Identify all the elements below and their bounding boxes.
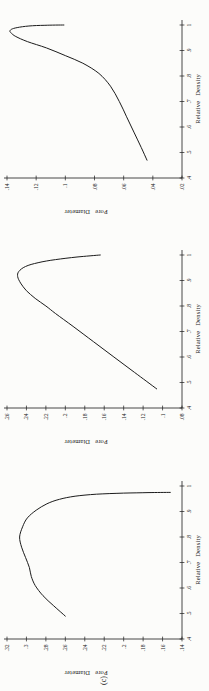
x-tick-label: .4 <box>186 176 192 180</box>
axis-lines <box>4 250 182 408</box>
x-tick-label: .7 <box>186 329 192 333</box>
x-tick-label: .4 <box>186 406 192 410</box>
x-tick-label: .5 <box>186 380 192 384</box>
x-tick-label: .7 <box>186 560 192 564</box>
y-tick-label: .14 <box>179 644 185 651</box>
x-tick-label: .9 <box>186 509 192 513</box>
x-tick-label: .8 <box>186 74 192 78</box>
y-tick-label: .28 <box>43 644 49 651</box>
y-tick-label: .26 <box>4 413 10 420</box>
x-tick-label: .8 <box>186 535 192 539</box>
y-tick-label: .22 <box>101 644 107 651</box>
y-tick-label: .26 <box>62 644 68 651</box>
line-chart-bottom: Pore Diameter Relative Density .4.5.6.7.… <box>0 461 209 691</box>
axis-lines <box>4 481 182 639</box>
line-chart-middle: Pore Diameter Relative Density .4.5.6.7.… <box>0 230 209 460</box>
y-tick-label: .06 <box>121 183 127 190</box>
y-tick-label: .12 <box>33 183 39 190</box>
x-tick-label: .9 <box>186 278 192 282</box>
x-tick-label: .5 <box>186 150 192 154</box>
y-tick-label: .08 <box>92 183 98 190</box>
x-axis-title: Relative Density <box>194 304 201 354</box>
y-tick-label: .2 <box>62 413 68 417</box>
data-curve <box>10 25 147 160</box>
axis-lines <box>4 20 182 178</box>
y-tick-label: .08 <box>179 413 185 420</box>
data-curve <box>18 255 157 389</box>
y-tick-label: .24 <box>23 413 29 420</box>
y-tick-label: .14 <box>4 183 10 190</box>
x-tick-label: .5 <box>186 611 192 615</box>
y-tick-label: .14 <box>121 413 127 420</box>
y-tick-label: .12 <box>140 413 146 420</box>
y-axis-title: Pore Diameter <box>64 439 108 446</box>
x-tick-label: .4 <box>186 637 192 641</box>
y-tick-label: .24 <box>82 644 88 651</box>
x-tick-label: .6 <box>186 125 192 129</box>
data-curve <box>20 492 171 616</box>
subplot-top: Pore Diameter Relative Density .4.5.6.7.… <box>0 0 209 230</box>
y-axis-title: Pore Diameter <box>64 209 108 216</box>
x-tick-label: .7 <box>186 99 192 103</box>
y-tick-label: .16 <box>101 413 107 420</box>
y-tick-label: .02 <box>179 183 185 190</box>
x-tick-label: .6 <box>186 355 192 359</box>
y-tick-label: .1 <box>160 413 166 417</box>
line-chart-top: Pore Diameter Relative Density .4.5.6.7.… <box>0 0 209 230</box>
x-tick-label: 1 <box>186 484 192 487</box>
y-tick-label: .18 <box>140 644 146 651</box>
y-tick-label: .18 <box>82 413 88 420</box>
y-tick-label: .1 <box>62 183 68 187</box>
subplot-bottom: Pore Diameter Relative Density .4.5.6.7.… <box>0 461 209 691</box>
x-tick-label: 1 <box>186 253 192 256</box>
y-tick-label: .2 <box>121 644 127 648</box>
y-tick-label: .22 <box>43 413 49 420</box>
y-tick-label: .16 <box>160 644 166 651</box>
x-tick-label: .6 <box>186 586 192 590</box>
subfigure-label: (c) <box>99 676 108 685</box>
figure-page: Pore Diameter Relative Density .4.5.6.7.… <box>0 0 209 691</box>
x-tick-label: 1 <box>186 23 192 26</box>
y-tick-label: .3 <box>23 644 29 648</box>
x-axis-title: Relative Density <box>194 535 201 585</box>
x-tick-label: .9 <box>186 48 192 52</box>
x-axis-title: Relative Density <box>194 74 201 124</box>
y-tick-label: .32 <box>4 644 10 651</box>
x-tick-label: .8 <box>186 304 192 308</box>
y-tick-label: .04 <box>150 183 156 190</box>
subplot-middle: Pore Diameter Relative Density .4.5.6.7.… <box>0 230 209 460</box>
